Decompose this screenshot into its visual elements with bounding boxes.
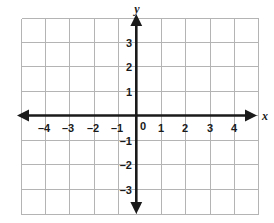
- y-tick-label-1: 1: [126, 86, 132, 98]
- y-tick-label--1: –1: [120, 135, 132, 147]
- y-tick-label--2: –2: [120, 159, 132, 171]
- x-tick-label--3: –3: [62, 122, 74, 134]
- x-tick-label-4: 4: [231, 122, 238, 134]
- x-tick-label--2: –2: [87, 122, 99, 134]
- y-tick-label-2: 2: [126, 61, 132, 73]
- y-tick-label--3: –3: [120, 184, 132, 196]
- x-tick-label--4: –4: [38, 122, 51, 134]
- x-tick-label-2: 2: [182, 122, 188, 134]
- y-tick-label-3: 3: [126, 37, 132, 49]
- x-axis-name-label: x: [261, 109, 268, 123]
- x-tick-label-1: 1: [158, 122, 164, 134]
- x-tick-label-3: 3: [207, 122, 213, 134]
- coordinate-plane-figure: –4 –3 –2 –1 1 2 3 4 3 2 1 –1 –2 –3 0 y x: [0, 0, 274, 223]
- x-tick-label--1: –1: [111, 122, 123, 134]
- y-axis-name-label: y: [132, 2, 140, 16]
- origin-label: 0: [140, 120, 146, 132]
